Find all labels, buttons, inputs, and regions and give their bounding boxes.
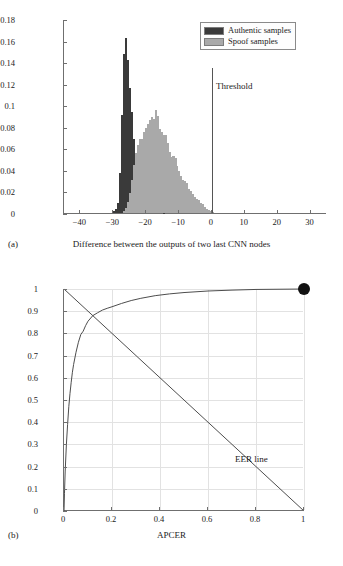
- roc-y-tick-mark: [63, 511, 67, 512]
- roc-x-tick-label: 0.6: [202, 514, 213, 524]
- figure-container: 00.020.040.060.080.10.120.140.160.18−40−…: [0, 0, 343, 566]
- histogram-y-tick-label: 0.1: [0, 101, 15, 111]
- histogram-x-tick-mark: [277, 210, 278, 214]
- panel-a-histogram: 00.020.040.060.080.10.120.140.160.18−40−…: [0, 0, 343, 258]
- histogram-y-tick-mark: [63, 20, 67, 21]
- roc-y-tick-mark: [63, 333, 67, 334]
- histogram-y-tick-mark: [63, 171, 67, 172]
- panel-a-tag: (a): [8, 239, 18, 249]
- histogram-x-tick-mark: [211, 210, 212, 214]
- threshold-label: Threshold: [216, 81, 253, 91]
- histogram-y-tick-label: 0.06: [0, 144, 15, 154]
- roc-y-tick-label: 0.8: [0, 328, 38, 338]
- histogram-x-tick-mark: [112, 210, 113, 214]
- histogram-x-tick-label: −30: [106, 217, 119, 227]
- eer-diagonal-line: [64, 289, 304, 511]
- eer-line-label: EER line: [235, 454, 268, 464]
- histogram-x-tick-label: 20: [272, 217, 281, 227]
- histogram-y-tick-mark: [63, 149, 67, 150]
- legend-item-spoof: Spoof samples: [204, 36, 291, 47]
- histogram-y-tick-label: 0.16: [0, 37, 15, 47]
- roc-endpoint-marker: [298, 283, 310, 295]
- roc-x-tick-mark: [207, 507, 208, 511]
- histogram-y-tick-label: 0: [0, 209, 15, 219]
- histogram-x-tick-mark: [310, 210, 311, 214]
- roc-x-tick-label: 0.4: [154, 514, 165, 524]
- roc-y-tick-mark: [63, 400, 67, 401]
- legend-label-authentic: Authentic samples: [228, 25, 291, 36]
- histogram-y-tick-mark: [63, 85, 67, 86]
- histogram-x-tick-mark: [244, 210, 245, 214]
- panel-b-tag: (b): [8, 530, 19, 540]
- roc-y-tick-mark: [63, 422, 67, 423]
- legend-swatch-spoof-icon: [204, 38, 224, 46]
- histogram-x-tick-label: 30: [305, 217, 314, 227]
- roc-y-tick-label: 0.9: [0, 306, 38, 316]
- roc-x-tick-mark: [159, 507, 160, 511]
- roc-x-tick-label: 0.8: [250, 514, 261, 524]
- roc-x-tick-mark: [255, 507, 256, 511]
- histogram-y-tick-label: 0.08: [0, 123, 15, 133]
- roc-y-tick-mark: [63, 467, 67, 468]
- legend-item-authentic: Authentic samples: [204, 25, 291, 36]
- histogram-y-tick-mark: [63, 128, 67, 129]
- roc-x-tick-label: 0.2: [106, 514, 117, 524]
- roc-plot-area: [63, 289, 303, 511]
- histogram-legend: Authentic samples Spoof samples: [200, 22, 296, 50]
- histogram-y-tick-mark: [63, 106, 67, 107]
- roc-y-tick-mark: [63, 378, 67, 379]
- roc-y-tick-label: 0.1: [0, 484, 38, 494]
- roc-y-tick-mark: [63, 289, 67, 290]
- histogram-y-tick-label: 0.18: [0, 15, 15, 25]
- histogram-x-tick-mark: [178, 210, 179, 214]
- roc-y-tick-label: 0: [0, 506, 38, 516]
- roc-y-tick-mark: [63, 356, 67, 357]
- histogram-x-tick-label: −20: [139, 217, 152, 227]
- roc-gridline-vertical: [304, 289, 305, 510]
- roc-y-tick-label: 0.4: [0, 417, 38, 427]
- histogram-x-axis-title: Difference between the outputs of two la…: [0, 239, 343, 249]
- roc-y-tick-label: 0.3: [0, 439, 38, 449]
- roc-y-tick-mark: [63, 489, 67, 490]
- roc-y-tick-label: 0.6: [0, 373, 38, 383]
- histogram-y-tick-mark: [63, 63, 67, 64]
- legend-label-spoof: Spoof samples: [228, 36, 278, 47]
- histogram-x-tick-label: 10: [240, 217, 249, 227]
- roc-x-tick-label: 0: [61, 514, 65, 524]
- histogram-x-tick-label: −40: [73, 217, 86, 227]
- roc-y-tick-label: 0.7: [0, 351, 38, 361]
- roc-x-axis-title: APCER: [0, 530, 343, 540]
- roc-y-axis-title: 1-BPCER: [0, 382, 1, 418]
- histogram-y-tick-mark: [63, 214, 67, 215]
- roc-x-tick-mark: [303, 507, 304, 511]
- histogram-x-tick-mark: [79, 210, 80, 214]
- legend-swatch-authentic-icon: [204, 27, 224, 35]
- roc-y-tick-label: 0.5: [0, 395, 38, 405]
- histogram-y-tick-mark: [63, 42, 67, 43]
- roc-y-tick-mark: [63, 444, 67, 445]
- histogram-y-tick-label: 0.02: [0, 187, 15, 197]
- roc-y-tick-label: 1: [0, 284, 38, 294]
- histogram-y-tick-label: 0.12: [0, 80, 15, 90]
- roc-curve-svg: [64, 289, 304, 511]
- roc-x-tick-mark: [63, 507, 64, 511]
- roc-y-tick-mark: [63, 311, 67, 312]
- histogram-x-tick-mark: [145, 210, 146, 214]
- histogram-y-tick-label: 0.04: [0, 166, 15, 176]
- histogram-y-tick-mark: [63, 192, 67, 193]
- threshold-line: [212, 68, 213, 214]
- roc-x-tick-label: 1: [301, 514, 305, 524]
- roc-y-tick-label: 0.2: [0, 462, 38, 472]
- histogram-x-tick-label: 0: [209, 217, 213, 227]
- panel-b-roc: 00.10.20.30.40.50.60.70.80.9100.20.40.60…: [0, 258, 343, 566]
- histogram-y-tick-label: 0.14: [0, 58, 15, 68]
- roc-x-tick-mark: [111, 507, 112, 511]
- histogram-x-tick-label: −10: [171, 217, 184, 227]
